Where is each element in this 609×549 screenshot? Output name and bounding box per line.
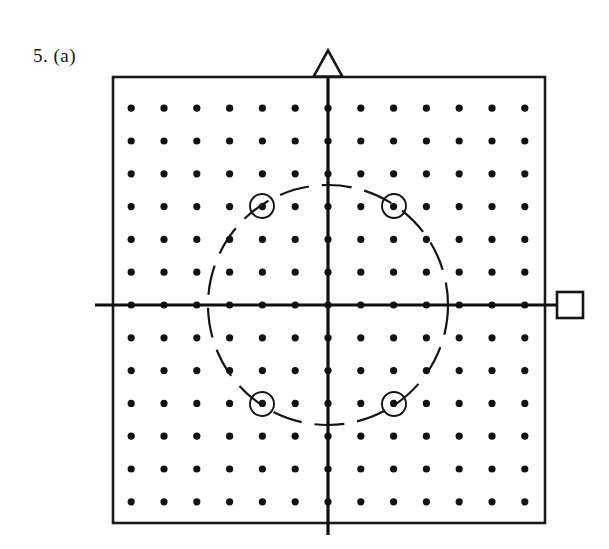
lattice-dot (521, 367, 528, 374)
lattice-dot (292, 269, 299, 276)
lattice-dot (292, 433, 299, 440)
lattice-dot (423, 269, 430, 276)
lattice-diagram (0, 0, 609, 549)
lattice-dot (226, 400, 233, 407)
lattice-dot (390, 170, 397, 177)
square-marker (557, 292, 583, 318)
lattice-dot (488, 203, 495, 210)
lattice-dot (259, 236, 266, 243)
lattice-dot (193, 236, 200, 243)
lattice-dot (423, 465, 430, 472)
lattice-dot (160, 400, 167, 407)
lattice-dot (160, 465, 167, 472)
lattice-dot (521, 137, 528, 144)
lattice-dot (521, 433, 528, 440)
lattice-dot (456, 334, 463, 341)
lattice-dot (521, 498, 528, 505)
lattice-dot (521, 236, 528, 243)
lattice-dot (456, 269, 463, 276)
lattice-dot (128, 400, 135, 407)
lattice-dot (193, 433, 200, 440)
lattice-dot (423, 170, 430, 177)
lattice-dot (488, 367, 495, 374)
lattice-dot (390, 236, 397, 243)
lattice-dot (226, 433, 233, 440)
lattice-dot (128, 269, 135, 276)
lattice-dot (226, 269, 233, 276)
lattice-dot (160, 269, 167, 276)
lattice-dot (226, 498, 233, 505)
lattice-dot (193, 498, 200, 505)
lattice-dot (357, 367, 364, 374)
lattice-dot (160, 433, 167, 440)
lattice-dot (488, 170, 495, 177)
lattice-dot (521, 105, 528, 112)
lattice-dot (521, 170, 528, 177)
lattice-dot (488, 236, 495, 243)
lattice-dot (390, 269, 397, 276)
lattice-dot (160, 498, 167, 505)
lattice-dot (128, 203, 135, 210)
lattice-dot (456, 498, 463, 505)
lattice-dot (160, 170, 167, 177)
lattice-dot (456, 203, 463, 210)
lattice-dot (128, 433, 135, 440)
lattice-dot (423, 236, 430, 243)
lattice-dot (357, 498, 364, 505)
lattice-dot (193, 170, 200, 177)
lattice-dot (423, 433, 430, 440)
lattice-dot (423, 105, 430, 112)
lattice-dot (423, 498, 430, 505)
lattice-dot (357, 203, 364, 210)
lattice-dot (226, 137, 233, 144)
lattice-dot (128, 137, 135, 144)
lattice-dot (357, 465, 364, 472)
lattice-dot (160, 236, 167, 243)
lattice-dot (423, 203, 430, 210)
lattice-dot (128, 498, 135, 505)
lattice-dot (292, 203, 299, 210)
lattice-dot (521, 203, 528, 210)
lattice-dot (259, 433, 266, 440)
lattice-dot (193, 105, 200, 112)
lattice-dot (259, 269, 266, 276)
lattice-dot (488, 137, 495, 144)
lattice-dot (521, 269, 528, 276)
lattice-dot (292, 170, 299, 177)
lattice-dot (456, 105, 463, 112)
lattice-dot (390, 334, 397, 341)
lattice-dot (357, 334, 364, 341)
lattice-dot (521, 400, 528, 407)
lattice-dot (193, 269, 200, 276)
lattice-dot (160, 137, 167, 144)
lattice-dot (521, 465, 528, 472)
lattice-dot (259, 498, 266, 505)
lattice-dot (160, 105, 167, 112)
lattice-dot (226, 203, 233, 210)
lattice-dot (357, 105, 364, 112)
lattice-dot (160, 367, 167, 374)
lattice-dot (259, 170, 266, 177)
lattice-dot (488, 400, 495, 407)
triangle-marker (314, 50, 343, 76)
lattice-dot (259, 334, 266, 341)
lattice-dot (357, 170, 364, 177)
lattice-dot (357, 137, 364, 144)
lattice-dot (128, 236, 135, 243)
lattice-dot (488, 433, 495, 440)
lattice-dot (292, 137, 299, 144)
lattice-dot (292, 334, 299, 341)
lattice-dot (456, 367, 463, 374)
lattice-dot (292, 498, 299, 505)
lattice-dot (292, 105, 299, 112)
lattice-dot (160, 203, 167, 210)
lattice-dot (521, 334, 528, 341)
lattice-dot (292, 400, 299, 407)
lattice-dot (390, 433, 397, 440)
lattice-dot (259, 465, 266, 472)
lattice-dot (259, 367, 266, 374)
lattice-dot (128, 367, 135, 374)
lattice-dot (488, 465, 495, 472)
lattice-dot (259, 105, 266, 112)
lattice-dot (390, 203, 397, 210)
